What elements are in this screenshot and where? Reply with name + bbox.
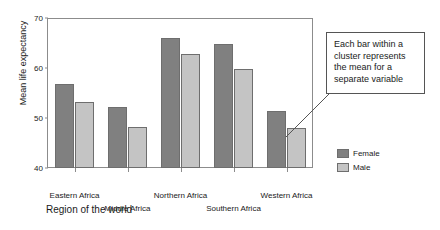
legend-item: Male [337,160,380,174]
y-axis-tick-mark [45,68,48,69]
bar-male [287,128,306,168]
bar-cluster [214,18,253,168]
y-axis-tick-mark [45,168,48,169]
bar-cluster [108,18,147,168]
bar-male [128,127,147,168]
bar-male [181,54,200,168]
x-axis-tick-label: Northern Africa [154,191,207,200]
legend-swatch-icon [337,149,349,158]
x-axis-tick-mark [234,168,235,172]
bar-cluster [267,18,306,168]
bar-male [75,102,94,168]
x-axis-title: Region of the world [46,204,132,215]
legend-swatch-icon [337,163,349,172]
bar-female [214,44,233,168]
callout-text: Each bar within a cluster represents the… [334,39,418,85]
x-axis-tick-mark [287,168,288,172]
callout-box: Each bar within a cluster represents the… [326,32,425,94]
legend-label: Female [353,149,380,158]
x-axis-tick-label: Western Africa [261,191,313,200]
x-axis-tick-mark [181,168,182,172]
bar-chart-figure: Mean life expectancy 40506070Eastern Afr… [0,0,440,230]
bar-female [55,84,74,168]
chart-legend: FemaleMale [337,146,380,174]
y-axis-tick-mark [45,118,48,119]
x-axis-tick-mark [75,168,76,172]
bar-cluster [161,18,200,168]
bar-female [267,111,286,169]
bar-male [234,69,253,168]
x-axis-tick-label: Eastern Africa [50,191,100,200]
bar-female [161,38,180,168]
y-axis-title: Mean life expectancy [18,0,28,133]
legend-item: Female [337,146,380,160]
x-axis-tick-label: Southern Africa [206,204,261,213]
bar-female [108,107,127,168]
y-axis-tick-mark [45,18,48,19]
legend-label: Male [353,163,370,172]
x-axis-tick-mark [128,168,129,172]
plot-area: 40506070Eastern AfricaMiddle AfricaNorth… [48,18,313,168]
bar-cluster [55,18,94,168]
